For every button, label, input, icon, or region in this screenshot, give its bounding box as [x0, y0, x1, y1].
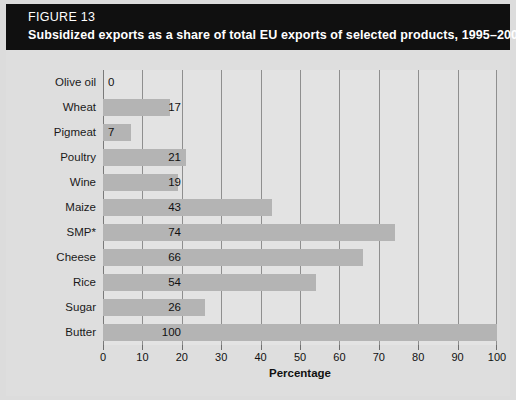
bar-value-label: 54: [103, 274, 181, 291]
category-label: Wine: [0, 174, 96, 191]
x-tick-20: [182, 345, 183, 350]
x-tick-80: [418, 345, 419, 350]
bar-row: 0: [103, 74, 497, 91]
bar-value-label: 0: [108, 74, 114, 91]
x-tick-40: [261, 345, 262, 350]
bar-row: 17: [103, 99, 497, 116]
x-tick-label-30: 30: [206, 351, 236, 364]
bar-row: 74: [103, 224, 497, 241]
bar-row: 21: [103, 149, 497, 166]
x-tick-label-40: 40: [246, 351, 276, 364]
bar-value-label: 100: [103, 324, 181, 341]
bar-value-label: 19: [103, 174, 181, 191]
x-axis-title: Percentage: [103, 367, 497, 379]
figure-header: FIGURE 13 Subsidized exports as a share …: [6, 4, 510, 50]
bar-row: 100: [103, 324, 497, 341]
x-tick-label-10: 10: [127, 351, 157, 364]
category-label: Cheese: [0, 249, 96, 266]
bar-value-label: 74: [103, 224, 181, 241]
x-tick-label-80: 80: [403, 351, 433, 364]
category-label: Sugar: [0, 299, 96, 316]
figure-title: Subsidized exports as a share of total E…: [28, 26, 510, 45]
bar-row: 19: [103, 174, 497, 191]
category-label: Wheat: [0, 99, 96, 116]
category-label: Poultry: [0, 149, 96, 166]
category-label: Butter: [0, 324, 96, 341]
category-label: Rice: [0, 274, 96, 291]
bar-value-label: 7: [108, 124, 114, 141]
figure-number: FIGURE 13: [28, 9, 510, 26]
category-label: SMP*: [0, 224, 96, 241]
x-tick-30: [221, 345, 222, 350]
bar-value-label: 21: [103, 149, 181, 166]
plot-area: 017721194374665426100: [103, 70, 497, 345]
x-tick-label-0: 0: [88, 351, 118, 364]
bar-row: 7: [103, 124, 497, 141]
x-axis: 0102030405060708090100 Percentage: [103, 345, 497, 395]
x-tick-50: [300, 345, 301, 350]
bar-row: 43: [103, 199, 497, 216]
bar-value-label: 66: [103, 249, 181, 266]
x-tick-60: [339, 345, 340, 350]
x-tick-70: [379, 345, 380, 350]
x-tick-label-50: 50: [285, 351, 315, 364]
figure-container: FIGURE 13 Subsidized exports as a share …: [0, 0, 516, 400]
bar-value-label: 17: [103, 99, 181, 116]
bar-row: 66: [103, 249, 497, 266]
category-label: Olive oil: [0, 74, 96, 91]
bar-rows: 017721194374665426100: [103, 70, 497, 345]
x-tick-100: [496, 345, 497, 350]
x-tick-label-100: 100: [482, 351, 512, 364]
x-tick-label-60: 60: [324, 351, 354, 364]
category-label: Maize: [0, 199, 96, 216]
x-tick-label-70: 70: [364, 351, 394, 364]
bar-row: 26: [103, 299, 497, 316]
x-tick-label-90: 90: [443, 351, 473, 364]
bar-value-label: 26: [103, 299, 181, 316]
x-tick-label-20: 20: [167, 351, 197, 364]
category-label: Pigmeat: [0, 124, 96, 141]
x-tick-10: [142, 345, 143, 350]
x-tick-90: [458, 345, 459, 350]
bar-row: 54: [103, 274, 497, 291]
bar-value-label: 43: [103, 199, 181, 216]
x-tick-0: [103, 345, 104, 350]
